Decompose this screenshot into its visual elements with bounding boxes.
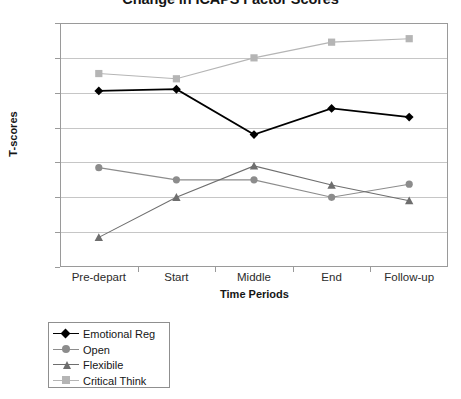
plot-area [60,23,448,267]
gridline [61,197,447,198]
chart-title: Change in ICAPS Factor Scores [0,0,461,7]
legend-label: Emotional Reg [79,328,155,340]
legend-swatch [53,343,79,357]
legend-label: Open [79,344,110,356]
y-axis-tick-mark [55,23,60,24]
x-axis-tick-mark [215,267,216,272]
legend-marker-triangle-icon [63,361,71,369]
legend-label: Flexibile [79,359,123,371]
legend-marker-circle-icon [62,345,70,353]
legend-item-emotional-reg[interactable]: Emotional Reg [53,326,155,342]
x-axis-tick-label: Middle [215,271,293,283]
x-axis-tick-mark [370,267,371,272]
y-axis-tick-mark [55,197,60,198]
legend-marker-square-icon [62,376,70,384]
x-axis-tick-label: Follow-up [370,271,448,283]
y-axis-tick-mark [55,58,60,59]
legend-item-open[interactable]: Open [53,342,110,358]
gridline [61,93,447,94]
x-axis-tick-mark [138,267,139,272]
x-axis-tick-label: Pre-depart [60,271,138,283]
legend-item-critical-think[interactable]: Critical Think [53,373,146,389]
x-axis-tick-label: End [293,271,371,283]
chart-container: Change in ICAPS Factor Scores T-scores 4… [0,0,461,399]
y-axis-title: T-scores [7,94,19,174]
legend-label: Critical Think [79,375,146,387]
y-axis-tick-mark [55,93,60,94]
gridline [61,128,447,129]
legend-swatch [53,374,79,388]
chart-legend: Emotional RegOpenFlexibileCritical Think [48,322,170,388]
y-axis-tick-mark [55,128,60,129]
x-axis-tick-mark [293,267,294,272]
legend-swatch [53,327,79,341]
x-axis-title: Time Periods [60,288,449,300]
gridline [61,232,447,233]
gridline [61,162,447,163]
legend-item-flexibile[interactable]: Flexibile [53,357,123,373]
gridline [61,58,447,59]
x-axis-tick-label: Start [138,271,216,283]
y-axis-tick-mark [55,267,60,268]
legend-swatch [53,358,79,372]
y-axis-tick-mark [55,232,60,233]
legend-marker-diamond-icon [61,329,71,339]
y-axis-tick-mark [55,162,60,163]
